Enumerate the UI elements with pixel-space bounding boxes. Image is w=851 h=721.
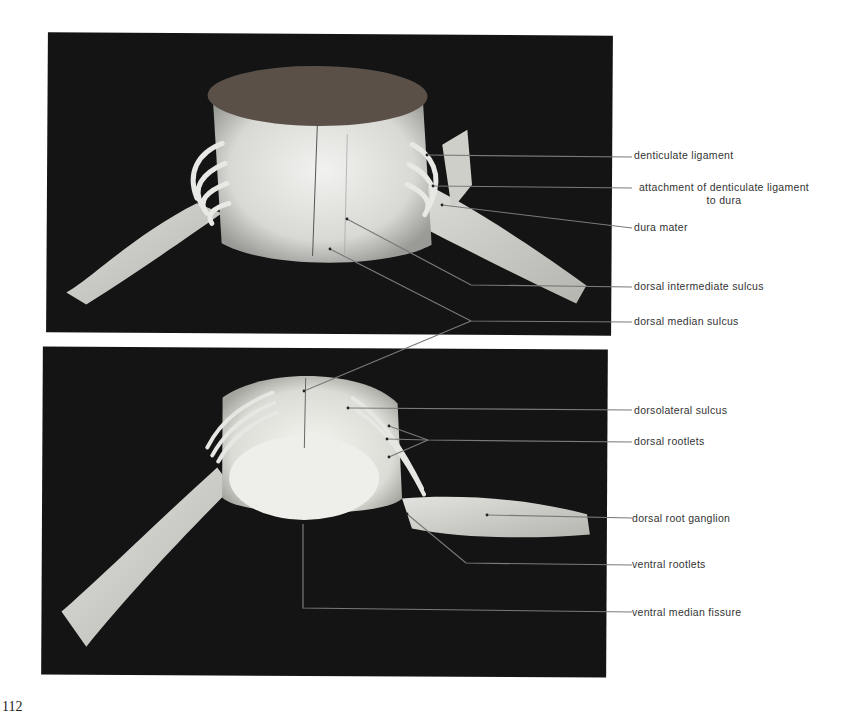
- label-denticulate-ligament: denticulate ligament: [634, 149, 733, 162]
- label-ventral-median-fissure: ventral median fissure: [632, 606, 741, 619]
- photo-spinal-cord-dorsal-view: [46, 32, 613, 335]
- label-ventral-rootlets: ventral rootlets: [632, 558, 706, 571]
- photo-spinal-cord-oblique-view: [41, 347, 608, 678]
- specimen-illustration-top: [46, 32, 613, 335]
- label-attachment-line1: attachment of denticulate ligament: [634, 181, 814, 194]
- label-dorsal-intermediate-sulcus: dorsal intermediate sulcus: [634, 280, 764, 293]
- label-dorsal-rootlets: dorsal rootlets: [634, 435, 704, 448]
- label-attachment-denticulate-ligament: attachment of denticulate ligament to du…: [634, 181, 814, 207]
- page-number: 112: [2, 699, 22, 715]
- label-attachment-line2: to dura: [634, 194, 814, 207]
- label-dorsal-median-sulcus: dorsal median sulcus: [634, 315, 739, 328]
- label-dorsolateral-sulcus: dorsolateral sulcus: [634, 404, 727, 417]
- specimen-illustration-bottom: [41, 347, 608, 678]
- label-dura-mater: dura mater: [634, 221, 688, 234]
- label-dorsal-root-ganglion: dorsal root ganglion: [632, 512, 730, 525]
